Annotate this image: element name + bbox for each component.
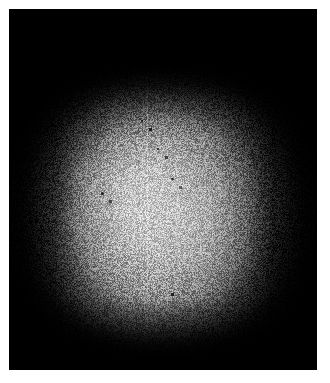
page-margin-bottom [0, 370, 330, 383]
beam-intensity-canvas [9, 9, 317, 370]
page-canvas [0, 0, 330, 383]
beam-profile-image [9, 9, 317, 370]
page-margin-right [317, 0, 330, 383]
page-margin-left [0, 0, 9, 383]
page-margin-top [0, 0, 330, 9]
